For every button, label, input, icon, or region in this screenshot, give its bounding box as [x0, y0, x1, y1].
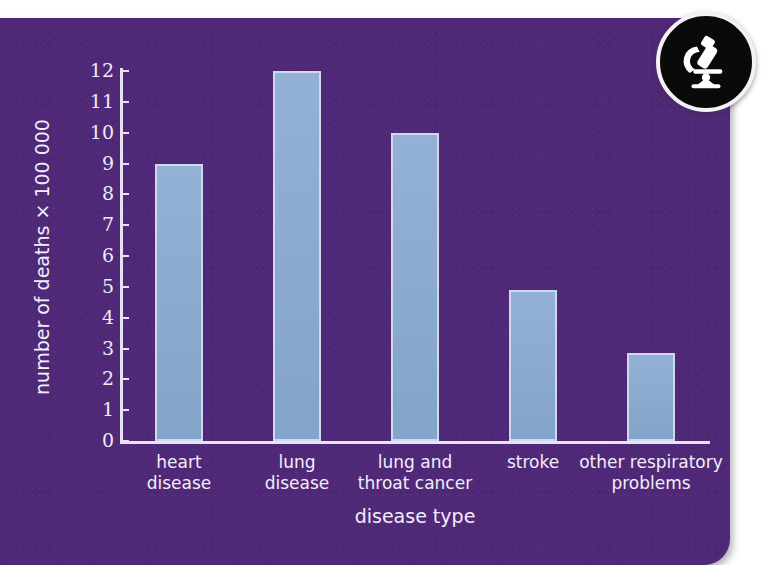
y-tick-mark	[120, 255, 129, 257]
y-tick-label: 8	[88, 184, 114, 203]
y-axis-title: number of deaths × 100 000	[31, 97, 53, 417]
y-tick-label: 1	[88, 400, 114, 419]
y-tick-label-wrap: 0	[0, 431, 114, 450]
y-tick-label: 3	[88, 339, 114, 358]
bar	[391, 133, 439, 441]
y-tick-mark	[120, 348, 129, 350]
x-category-label-line: problems	[566, 473, 736, 494]
y-tick-label: 10	[88, 123, 114, 142]
y-tick-label: 11	[88, 92, 114, 111]
y-tick-label-wrap: 4	[0, 308, 114, 327]
y-tick-label-wrap: 8	[0, 184, 114, 203]
x-category-label-line: other respiratory	[566, 452, 736, 473]
y-tick-mark	[120, 409, 129, 411]
y-tick-label: 12	[88, 61, 114, 80]
bar	[273, 71, 321, 441]
bar-fill	[275, 73, 319, 439]
y-tick-label: 0	[88, 431, 114, 450]
y-tick-label: 2	[88, 369, 114, 388]
x-category-label: other respiratoryproblems	[566, 452, 736, 494]
y-tick-label-wrap: 6	[0, 246, 114, 265]
y-tick-label-wrap: 11	[0, 92, 114, 111]
y-tick-label-wrap: 2	[0, 369, 114, 388]
y-tick-label-wrap: 10	[0, 123, 114, 142]
bar-fill	[157, 166, 201, 440]
y-tick-mark	[120, 440, 129, 442]
y-tick-mark	[120, 224, 129, 226]
y-tick-label: 5	[88, 277, 114, 296]
y-tick-mark	[120, 286, 129, 288]
y-tick-mark	[120, 101, 129, 103]
bar	[155, 164, 203, 442]
x-category-label-line: throat cancer	[330, 473, 500, 494]
y-tick-mark	[120, 70, 129, 72]
y-tick-label-wrap: 1	[0, 400, 114, 419]
microscope-icon	[677, 33, 735, 91]
microscope-badge	[656, 12, 756, 112]
y-tick-label-wrap: 7	[0, 215, 114, 234]
y-tick-mark	[120, 132, 129, 134]
y-tick-mark	[120, 317, 129, 319]
y-tick-label-wrap: 3	[0, 339, 114, 358]
x-axis-line	[120, 441, 710, 444]
bar-fill	[511, 292, 555, 439]
y-tick-label: 6	[88, 246, 114, 265]
bar-fill	[629, 355, 673, 439]
bar-chart: 1211109876543210 heartdiseaselungdisease…	[0, 0, 770, 585]
y-tick-mark	[120, 378, 129, 380]
y-tick-label: 9	[88, 154, 114, 173]
bar	[509, 290, 557, 441]
bar-fill	[393, 135, 437, 439]
y-tick-label-wrap: 12	[0, 61, 114, 80]
x-axis-title: disease type	[120, 505, 710, 527]
y-tick-mark	[120, 163, 129, 165]
bar	[627, 353, 675, 441]
y-tick-label-wrap: 9	[0, 154, 114, 173]
y-tick-label: 4	[88, 308, 114, 327]
y-tick-label-wrap: 5	[0, 277, 114, 296]
y-tick-mark	[120, 193, 129, 195]
y-tick-label: 7	[88, 215, 114, 234]
page-bottom-margin	[0, 565, 770, 585]
